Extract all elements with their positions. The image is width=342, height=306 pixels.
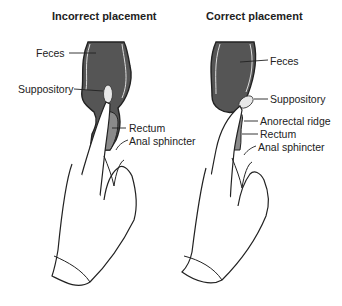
anorectal-ridge-label: Anorectal ridge (260, 115, 331, 127)
anal-sphincter-label-right: Anal sphincter (258, 141, 325, 153)
correct-placement-title: Correct placement (206, 10, 303, 22)
incorrect-placement-title: Incorrect placement (52, 10, 157, 22)
feces-label-right: Feces (270, 55, 299, 67)
illustration (0, 0, 342, 306)
suppository-label-left: Suppository (18, 83, 73, 95)
rectum-label-left: Rectum (129, 122, 165, 134)
anal-sphincter-label-left: Anal sphincter (129, 135, 196, 147)
rectum-label-right: Rectum (260, 128, 296, 140)
feces-label-left: Feces (36, 47, 65, 59)
incorrect-placement-illustration (52, 42, 136, 285)
suppository-label-right: Suppository (270, 93, 325, 105)
correct-placement-illustration (182, 42, 268, 283)
